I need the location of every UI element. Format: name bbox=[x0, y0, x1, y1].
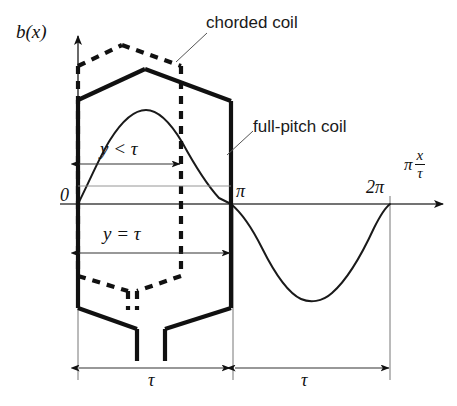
trapezoid-left-shoulder bbox=[78, 69, 145, 100]
dimension-lines bbox=[79, 164, 389, 368]
leader-line-chorded-coil bbox=[176, 33, 207, 62]
x-axis-unit-denominator: τ bbox=[415, 165, 424, 181]
tau-dimension-label-left: τ bbox=[148, 371, 154, 389]
x-axis-unit-numerator: x bbox=[415, 148, 426, 164]
x-axis-unit-prefix: π bbox=[404, 156, 413, 173]
chorded-coil-label: chorded coil bbox=[206, 14, 298, 31]
trapezoid-right-shoulder bbox=[145, 69, 231, 101]
chorded-left-shoulder bbox=[78, 45, 122, 66]
origin-label: 0 bbox=[60, 186, 69, 204]
y-axis-label: b(x) bbox=[16, 22, 47, 41]
chorded-funnel-left-slant bbox=[78, 276, 128, 291]
tick-label-two-pi: 2π bbox=[366, 178, 384, 196]
x-axis-unit-fraction: x τ bbox=[415, 148, 426, 181]
chorded-funnel-right-slant bbox=[137, 276, 181, 291]
full-pitch-span-label: y = τ bbox=[103, 224, 141, 243]
chorded-span-label: y < τ bbox=[100, 139, 138, 158]
tick-label-pi: π bbox=[236, 182, 245, 200]
full-pitch-coil-label: full-pitch coil bbox=[253, 118, 347, 135]
funnel-left-slant bbox=[78, 308, 137, 329]
funnel-right-slant bbox=[165, 308, 231, 329]
axes bbox=[60, 36, 443, 204]
chorded-right-shoulder bbox=[122, 45, 181, 66]
series-chorded-coil bbox=[78, 45, 181, 310]
flux-density-diagram: b(x) chorded coil full-pitch coil 0 y < … bbox=[0, 0, 457, 406]
x-axis-unit-label: π x τ bbox=[404, 148, 425, 181]
tau-dimension-label-right: τ bbox=[301, 371, 307, 389]
